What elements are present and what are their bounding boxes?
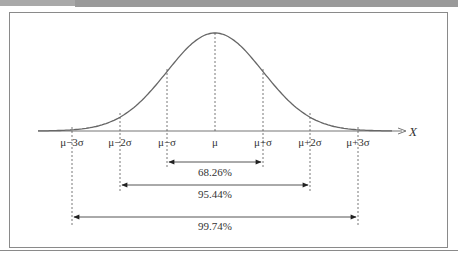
tick-mu-plus-3sigma: μ+3σ: [346, 136, 370, 148]
bottom-divider: [0, 250, 458, 251]
tick-mu-plus-sigma: μ+σ: [254, 136, 272, 148]
interval-3sigma-label: 99.74%: [198, 220, 232, 232]
normal-distribution-diagram: μ−3σ μ−2σ μ−σ μ μ+σ μ+2σ μ+3σ X 68.26% 9…: [0, 0, 458, 263]
tick-mu: μ: [212, 136, 218, 148]
tick-mu-plus-2sigma: μ+2σ: [298, 136, 322, 148]
interval-1sigma-label: 68.26%: [198, 166, 232, 178]
axis-label-x: X: [408, 124, 418, 139]
tick-mu-minus-sigma: μ−σ: [158, 136, 176, 148]
interval-2sigma-label: 95.44%: [198, 188, 232, 200]
tick-mu-minus-2sigma: μ−2σ: [108, 136, 132, 148]
tick-mu-minus-3sigma: μ−3σ: [60, 136, 84, 148]
